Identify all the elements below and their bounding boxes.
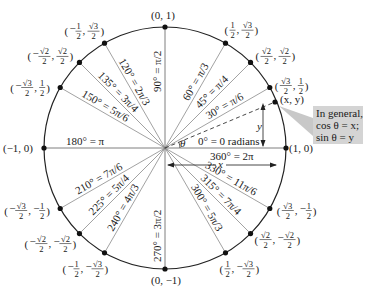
svg-text:): ) xyxy=(105,263,109,276)
svg-text:2: 2 xyxy=(76,31,80,41)
svg-text:−: − xyxy=(15,79,21,91)
svg-text:): ) xyxy=(256,263,260,276)
svg-text:2: 2 xyxy=(246,269,250,279)
svg-text:−: − xyxy=(68,260,74,272)
svg-text:−: − xyxy=(278,231,284,243)
angle-label-180: 180° = π xyxy=(66,135,105,147)
svg-text:√2: √2 xyxy=(285,230,294,240)
svg-text:−: − xyxy=(29,235,35,247)
point-120 xyxy=(102,41,107,46)
coord-label-300: (12,−√32) xyxy=(220,259,260,279)
svg-text:√3: √3 xyxy=(23,78,32,88)
point-330 xyxy=(267,206,272,211)
svg-text:−: − xyxy=(300,202,306,214)
callout-line-1: In general, xyxy=(316,107,363,119)
coord-label-135: (−√22,√22) xyxy=(27,46,73,66)
x-arrow-head-right-icon xyxy=(270,163,277,168)
svg-text:1: 1 xyxy=(74,259,78,269)
svg-text:2: 2 xyxy=(230,30,234,40)
svg-text:): ) xyxy=(69,50,73,63)
svg-text:√3: √3 xyxy=(281,76,290,86)
svg-text:(: ( xyxy=(220,263,224,276)
svg-text:(: ( xyxy=(27,50,31,63)
svg-text:−: − xyxy=(237,260,243,272)
svg-text:2: 2 xyxy=(63,244,67,254)
unit-circle-diagram: θ y x 0° = 0 radians 360° = 2π 180° = π … xyxy=(0,0,365,296)
svg-text:): ) xyxy=(297,234,301,247)
svg-text:,: , xyxy=(51,49,54,61)
coord-label-240: (−12,−√32) xyxy=(63,259,109,279)
coord-label-0: (1, 0) xyxy=(289,142,313,155)
point-315 xyxy=(248,231,253,236)
x-arrow-head-left-icon xyxy=(167,163,174,168)
svg-text:1: 1 xyxy=(225,259,229,269)
svg-text:−: − xyxy=(9,202,15,214)
coord-label-270: (0, −1) xyxy=(151,274,181,287)
svg-text:2: 2 xyxy=(39,244,43,254)
svg-text:): ) xyxy=(72,238,76,251)
svg-text:1: 1 xyxy=(76,21,80,31)
svg-text:,: , xyxy=(48,237,51,249)
svg-text:,: , xyxy=(274,49,277,61)
callout-pointer xyxy=(279,106,313,136)
coord-label-60: (12,√32) xyxy=(225,20,259,40)
svg-text:,: , xyxy=(293,79,296,91)
svg-text:(: ( xyxy=(225,24,229,37)
svg-text:(: ( xyxy=(255,234,259,247)
svg-text:): ) xyxy=(292,50,296,63)
coord-label-315: (√22,−√22) xyxy=(255,230,301,250)
svg-text:−: − xyxy=(53,235,59,247)
svg-text:): ) xyxy=(313,205,317,218)
svg-text:(: ( xyxy=(63,263,67,276)
svg-text:2: 2 xyxy=(19,211,23,221)
angle-label-270: 270° = 3π/2 xyxy=(151,210,163,262)
svg-text:,: , xyxy=(295,204,298,216)
svg-text:√3: √3 xyxy=(89,21,98,31)
svg-text:√2: √2 xyxy=(40,46,49,56)
svg-text:,: , xyxy=(81,262,84,274)
y-label: y xyxy=(256,120,262,132)
svg-text:√3: √3 xyxy=(243,20,252,30)
svg-text:,: , xyxy=(83,24,86,36)
svg-text:(: ( xyxy=(4,205,8,218)
theta-label: θ xyxy=(180,137,186,149)
coord-label-330: (√32,−12) xyxy=(277,201,317,221)
svg-text:√2: √2 xyxy=(37,234,46,244)
callout-line-3: sin θ = y xyxy=(316,131,355,143)
svg-text:2: 2 xyxy=(245,30,249,40)
coord-label-120: (−12,√32) xyxy=(65,21,105,41)
svg-text:2: 2 xyxy=(74,269,78,279)
svg-text:√3: √3 xyxy=(244,259,253,269)
svg-text:2: 2 xyxy=(40,211,44,221)
point-270 xyxy=(162,266,167,271)
point-135 xyxy=(77,60,82,65)
angle-label-90: 90° = π/2 xyxy=(151,51,163,92)
point-150 xyxy=(58,85,63,90)
general-point xyxy=(272,99,277,104)
svg-text:2: 2 xyxy=(95,269,99,279)
svg-text:,: , xyxy=(273,233,276,245)
svg-text:): ) xyxy=(46,82,50,95)
svg-text:,: , xyxy=(237,23,240,35)
point-45 xyxy=(248,60,253,65)
svg-text:(: ( xyxy=(277,205,281,218)
svg-text:): ) xyxy=(305,80,309,93)
coord-label-45: (√22,√22) xyxy=(256,46,296,66)
svg-text:1: 1 xyxy=(40,78,44,88)
svg-text:2: 2 xyxy=(286,211,290,221)
svg-text:2: 2 xyxy=(264,56,268,66)
svg-text:−: − xyxy=(70,22,76,34)
svg-text:): ) xyxy=(255,24,259,37)
point-0 xyxy=(283,145,288,150)
point-300 xyxy=(223,250,228,255)
svg-text:(: ( xyxy=(275,80,279,93)
svg-text:2: 2 xyxy=(225,269,229,279)
svg-text:(: ( xyxy=(256,50,260,63)
svg-text:,: , xyxy=(28,204,31,216)
point-240 xyxy=(102,250,107,255)
point-90 xyxy=(162,24,167,29)
svg-text:2: 2 xyxy=(263,240,267,250)
point-210 xyxy=(58,206,63,211)
point-60 xyxy=(223,41,228,46)
svg-text:(: ( xyxy=(65,25,69,38)
